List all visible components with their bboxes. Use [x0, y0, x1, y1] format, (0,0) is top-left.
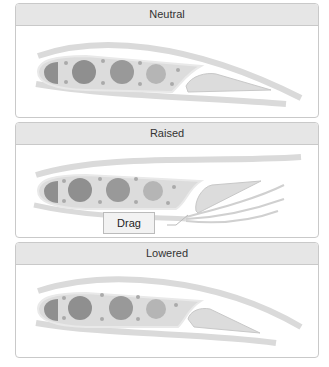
airfoil-diagram-lowered: [16, 265, 318, 357]
airfoil-diagram-raised: [16, 145, 318, 237]
drag-callout: Drag: [103, 212, 155, 234]
airfoil-neutral-graphic: [16, 26, 318, 117]
panel-title: Lowered: [16, 243, 318, 265]
panel-lowered: Lowered: [15, 242, 319, 358]
panel-title: Neutral: [16, 4, 318, 26]
airfoil-raised-graphic: [16, 145, 318, 237]
panel-neutral: Neutral: [15, 3, 319, 118]
airfoil-diagram-neutral: [16, 26, 318, 117]
airfoil-lowered-graphic: [16, 265, 318, 357]
panel-title: Raised: [16, 123, 318, 145]
panel-raised: Raised Drag: [15, 122, 319, 238]
